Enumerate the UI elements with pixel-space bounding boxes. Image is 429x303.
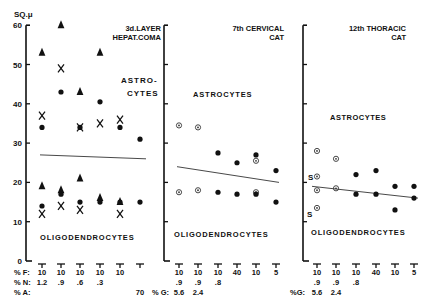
n-value: .9	[314, 278, 320, 287]
circled-dot-center	[316, 176, 318, 178]
n-value: .8	[353, 278, 359, 287]
dot-marker	[137, 199, 142, 204]
panel2-row-label-g: % G:	[152, 288, 169, 297]
f-value: 5	[274, 268, 278, 277]
circled-dot-center	[178, 125, 180, 127]
trend-lines	[40, 155, 418, 198]
f-value: 10	[175, 268, 183, 277]
g-value: 5.6	[312, 288, 322, 297]
dot-marker	[58, 89, 63, 94]
panel1-astrocytes-label-2: CYTES	[127, 89, 159, 98]
dot-marker	[253, 152, 258, 157]
panel2-oligodendrocytes-label: OLIGODENDROCYTES	[174, 230, 268, 239]
n-value: .9	[58, 278, 64, 287]
f-value: 10	[391, 268, 399, 277]
f-value: 40	[372, 268, 380, 277]
s-annotation-upper: S	[308, 173, 314, 182]
y-tick-label: 0	[18, 257, 23, 266]
panel3-title-line1: 12th THORACIC	[349, 24, 407, 33]
dot-marker	[97, 99, 102, 104]
dot-marker	[77, 125, 82, 130]
n-value: .8	[215, 278, 221, 287]
dot-marker	[234, 160, 239, 165]
n-value: .6	[77, 278, 83, 287]
triangle-marker	[58, 20, 65, 28]
f-value: 40	[233, 268, 241, 277]
triangle-marker	[77, 87, 84, 95]
circled-dot-center	[178, 191, 180, 193]
f-value: 10	[96, 268, 104, 277]
chart-labels: SQ.μ 3d.LAYER HEPAT.COMA ASTRO- CYTES OL…	[14, 10, 407, 297]
dot-marker	[392, 207, 397, 212]
y-axis-label: SQ.μ	[14, 10, 33, 19]
dot-marker	[39, 203, 44, 208]
dot-marker	[137, 137, 142, 142]
n-value: 1.2	[37, 278, 47, 287]
triangle-marker	[39, 48, 46, 56]
f-value: 10	[57, 268, 65, 277]
n-value: .3	[97, 278, 103, 287]
n-value: .9	[176, 278, 182, 287]
panel1-oligodendrocytes-label: OLIGODENDROCYTES	[40, 233, 134, 242]
dot-marker	[373, 192, 378, 197]
f-value: 10	[116, 268, 124, 277]
y-tick-label: 40	[13, 100, 22, 109]
dot-marker	[392, 184, 397, 189]
f-value: 10	[332, 268, 340, 277]
dot-marker	[77, 199, 82, 204]
triangle-marker	[97, 48, 104, 56]
circled-dot-center	[197, 126, 199, 128]
s-annotation-lower: S	[307, 210, 313, 219]
circled-dot-center	[335, 187, 337, 189]
row-label-f: % F:	[14, 268, 30, 277]
row-label-n: % N:	[14, 278, 31, 287]
morphometry-chart: 6050403020100 SQ.μ 3d.LAYER HEPAT.COMA A…	[0, 0, 429, 303]
n-value: .9	[195, 278, 201, 287]
panel3-row-label-g: %G:	[290, 288, 305, 297]
dot-marker	[234, 192, 239, 197]
circled-dot-center	[316, 189, 318, 191]
y-tick-label: 60	[13, 21, 22, 30]
trend-line	[312, 186, 418, 198]
f-value: 10	[252, 268, 260, 277]
dot-marker	[273, 199, 278, 204]
circled-dot-center	[255, 160, 257, 162]
f-value: 5	[412, 268, 416, 277]
dot-marker	[58, 192, 63, 197]
circled-dot-center	[335, 158, 337, 160]
circled-dot-center	[316, 150, 318, 152]
panel2-title-line1: 7th CERVICAL	[232, 24, 284, 33]
panel2-title-line2: CAT	[269, 33, 284, 42]
panel2-astrocytes-label: ASTROCYTES	[193, 90, 252, 99]
dot-marker	[117, 125, 122, 130]
f-value: 10	[214, 268, 222, 277]
dot-marker	[353, 192, 358, 197]
y-tick-label: 20	[13, 178, 22, 187]
f-value: 10	[352, 268, 360, 277]
f-value: 10	[76, 268, 84, 277]
trend-line	[177, 167, 279, 183]
dot-marker	[215, 150, 220, 155]
panel3-oligodendrocytes-label: OLIGODENDROCYTES	[311, 228, 405, 237]
f-value: 10	[38, 268, 46, 277]
dot-marker	[353, 172, 358, 177]
f-value: 10	[313, 268, 321, 277]
dot-marker	[117, 199, 122, 204]
y-tick-label: 30	[13, 139, 22, 148]
dot-marker	[411, 184, 416, 189]
panel3-astrocytes-label: ASTROCYTES	[330, 113, 386, 122]
y-tick-label: 50	[13, 61, 22, 70]
dot-marker	[215, 190, 220, 195]
dot-marker	[253, 192, 258, 197]
n-value: .9	[333, 278, 339, 287]
g-value: 5.6	[174, 288, 184, 297]
f-value: 10	[194, 268, 202, 277]
trend-line	[40, 155, 146, 159]
g-value: 2.4	[193, 288, 204, 297]
triangle-marker	[39, 181, 46, 189]
y-tick-label: 10	[13, 218, 22, 227]
dot-marker	[97, 199, 102, 204]
circled-dot-center	[316, 207, 318, 209]
dot-marker	[273, 168, 278, 173]
panel3-title-line2: CAT	[391, 33, 406, 42]
